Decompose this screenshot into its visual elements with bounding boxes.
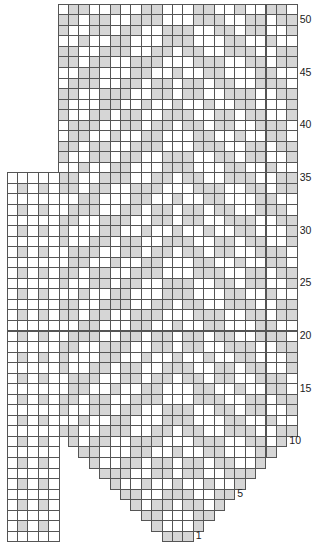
- chart-cell: [286, 373, 297, 385]
- side-chart-cell: [48, 415, 59, 427]
- chart-cell: [286, 99, 297, 111]
- chart-cell: [286, 141, 297, 153]
- side-chart-cell: [48, 478, 59, 490]
- chart-cell: [255, 457, 266, 469]
- chart-cell: [286, 56, 297, 68]
- chart-cell: [286, 14, 297, 26]
- side-chart-cell: [48, 362, 59, 374]
- chart-cell: [286, 341, 297, 353]
- chart-cell: [286, 309, 297, 321]
- side-chart-cell: [48, 288, 59, 300]
- side-chart-cell: [48, 236, 59, 248]
- side-chart-cell: [48, 489, 59, 501]
- row-label-35: 35: [300, 172, 312, 183]
- row-label-5: 5: [237, 488, 243, 499]
- chart-cell: [286, 151, 297, 163]
- side-chart-cell: [48, 257, 59, 269]
- chart-cell: [286, 183, 297, 195]
- side-chart-cell: [48, 246, 59, 258]
- row-label-20: 20: [300, 330, 312, 341]
- row-label-30: 30: [300, 225, 312, 236]
- side-chart-cell: [48, 404, 59, 416]
- chart-cell: [214, 499, 225, 511]
- side-chart-cell: [48, 172, 59, 184]
- chart-cell: [286, 46, 297, 58]
- side-chart-cell: [48, 215, 59, 227]
- side-chart-cell: [48, 468, 59, 480]
- side-chart-cell: [48, 278, 59, 290]
- side-chart-cell: [48, 531, 59, 542]
- chart-cell: [286, 204, 297, 216]
- chart-cell: [286, 193, 297, 205]
- chart-cell: [286, 394, 297, 406]
- row-label-25: 25: [300, 277, 312, 288]
- chart-cell: [286, 172, 297, 184]
- chart-cell: [286, 67, 297, 79]
- chart-cell: [286, 225, 297, 237]
- side-chart-cell: [48, 425, 59, 437]
- chart-cell: [286, 331, 297, 343]
- chart-cell: [286, 288, 297, 300]
- row-label-40: 40: [300, 119, 312, 130]
- chart-cell: [182, 531, 193, 542]
- side-chart-cell: [48, 373, 59, 385]
- chart-cell: [286, 120, 297, 132]
- chart-cell: [286, 35, 297, 47]
- chart-cell: [203, 510, 214, 522]
- chart-cell: [286, 4, 297, 16]
- side-chart-cell: [48, 446, 59, 458]
- chart-cell: [286, 352, 297, 364]
- chart-cell: [286, 215, 297, 227]
- side-chart-cell: [48, 341, 59, 353]
- side-chart-cell: [48, 520, 59, 532]
- chart-cell: [286, 404, 297, 416]
- side-chart-cell: [48, 204, 59, 216]
- chart-cell: [286, 320, 297, 332]
- chart-cell: [224, 489, 235, 501]
- side-chart-cell: [48, 299, 59, 311]
- side-chart-cell: [48, 436, 59, 448]
- side-chart-cell: [48, 352, 59, 364]
- side-chart-cell: [48, 183, 59, 195]
- chart-cell: [286, 299, 297, 311]
- side-chart-cell: [48, 309, 59, 321]
- side-chart-cell: [48, 383, 59, 395]
- side-chart-cell: [48, 457, 59, 469]
- chart-cell: [286, 109, 297, 121]
- row-label-10: 10: [289, 435, 301, 446]
- chart-cell: [286, 88, 297, 100]
- chart-cell: [286, 78, 297, 90]
- chart-cell: [245, 468, 256, 480]
- row-label-45: 45: [300, 67, 312, 78]
- chart-cell: [286, 257, 297, 269]
- chart-cell: [286, 267, 297, 279]
- chart-cell: [286, 278, 297, 290]
- chart-cell: [286, 130, 297, 142]
- chart-cell: [286, 362, 297, 374]
- row-label-50: 50: [300, 14, 312, 25]
- side-chart-cell: [48, 225, 59, 237]
- row-label-15: 15: [300, 383, 312, 394]
- chart-cell: [286, 236, 297, 248]
- side-chart-cell: [48, 394, 59, 406]
- chart-cell: [286, 25, 297, 37]
- chart-cell: [286, 415, 297, 427]
- chart-cell: [276, 436, 287, 448]
- side-chart-cell: [48, 499, 59, 511]
- side-chart-cell: [48, 267, 59, 279]
- side-chart-cell: [48, 331, 59, 343]
- side-chart-cell: [48, 320, 59, 332]
- row-label-1: 1: [196, 530, 202, 541]
- side-chart-cell: [48, 193, 59, 205]
- chart-cell: [266, 446, 277, 458]
- chart-cell: [286, 383, 297, 395]
- side-chart-cell: [48, 510, 59, 522]
- chart-cell: [286, 162, 297, 174]
- chart-cell: [286, 246, 297, 258]
